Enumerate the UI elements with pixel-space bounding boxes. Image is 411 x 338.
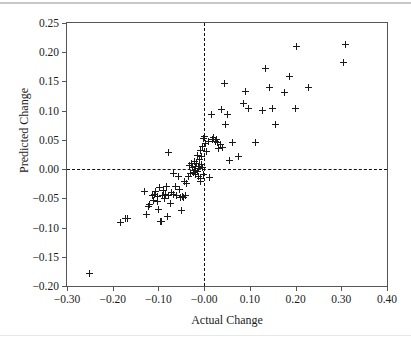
data-point bbox=[173, 192, 180, 199]
plot-area bbox=[67, 23, 387, 286]
y-axis-tick-label: 0.25 bbox=[39, 17, 59, 29]
data-point bbox=[245, 105, 252, 112]
zero-line-horizontal bbox=[67, 169, 387, 170]
data-point bbox=[229, 139, 236, 146]
data-point bbox=[193, 160, 200, 167]
data-point bbox=[305, 84, 312, 91]
data-point bbox=[161, 195, 168, 202]
y-axis-tick-label: −0.10 bbox=[32, 222, 59, 234]
y-axis-tick-label: 0.10 bbox=[39, 105, 59, 117]
x-axis-tick-label: −0.10 bbox=[145, 293, 172, 305]
data-point bbox=[286, 73, 293, 80]
x-axis-tick bbox=[341, 286, 342, 291]
data-point bbox=[165, 149, 172, 156]
data-point bbox=[181, 178, 188, 185]
data-point bbox=[170, 191, 177, 198]
y-axis-tick-label: −0.15 bbox=[32, 251, 59, 263]
zero-line-vertical bbox=[204, 23, 205, 286]
data-point bbox=[196, 156, 203, 163]
data-point bbox=[157, 218, 164, 225]
x-axis-tick-label: 0.10 bbox=[240, 293, 260, 305]
scan-artifact-top-line bbox=[0, 2, 411, 4]
data-point bbox=[191, 158, 198, 165]
y-axis-tick bbox=[62, 169, 67, 170]
data-point bbox=[155, 206, 162, 213]
x-axis-tick bbox=[67, 286, 68, 291]
data-point bbox=[293, 43, 300, 50]
data-point bbox=[170, 170, 177, 177]
x-axis-tick-label: 0.30 bbox=[331, 293, 351, 305]
data-point bbox=[210, 134, 217, 141]
data-point bbox=[122, 215, 129, 222]
y-axis-tick bbox=[62, 52, 67, 53]
y-axis-tick-label: 0.20 bbox=[39, 46, 59, 58]
y-axis-tick-label: 0.15 bbox=[39, 75, 59, 87]
data-point bbox=[151, 191, 158, 198]
y-axis-tick bbox=[62, 257, 67, 258]
data-point bbox=[292, 105, 299, 112]
data-point bbox=[159, 192, 166, 199]
x-axis-tick-label: −0.00 bbox=[191, 293, 218, 305]
data-point bbox=[143, 211, 150, 218]
data-point bbox=[240, 100, 247, 107]
y-axis-tick bbox=[62, 23, 67, 24]
data-point bbox=[149, 192, 156, 199]
data-point bbox=[214, 139, 221, 146]
data-point bbox=[154, 198, 161, 205]
data-point bbox=[218, 106, 225, 113]
data-point bbox=[189, 164, 196, 171]
data-point bbox=[176, 186, 183, 193]
data-point bbox=[259, 107, 266, 114]
data-point bbox=[187, 170, 194, 177]
data-point bbox=[177, 194, 184, 201]
data-point bbox=[145, 203, 152, 210]
y-axis-tick bbox=[62, 140, 67, 141]
y-axis-label: Predicted Change bbox=[17, 51, 32, 211]
data-point bbox=[266, 84, 273, 91]
data-point bbox=[281, 89, 288, 96]
data-point bbox=[209, 136, 216, 143]
y-axis-tick bbox=[62, 81, 67, 82]
data-point bbox=[221, 80, 228, 87]
y-axis-tick-label: −0.05 bbox=[32, 192, 59, 204]
data-point bbox=[162, 191, 169, 198]
plot-frame: −0.20−0.15−0.10−0.050.000.050.100.150.20… bbox=[66, 22, 388, 287]
data-point bbox=[156, 184, 163, 191]
data-point bbox=[179, 193, 186, 200]
data-point bbox=[340, 59, 347, 66]
x-axis-tick bbox=[387, 286, 388, 291]
data-point bbox=[190, 169, 197, 176]
data-point bbox=[172, 183, 179, 190]
data-point bbox=[222, 121, 229, 128]
data-point bbox=[215, 145, 222, 152]
data-point bbox=[194, 152, 201, 159]
data-point bbox=[165, 192, 172, 199]
data-point bbox=[272, 121, 279, 128]
data-point bbox=[185, 173, 192, 180]
data-point bbox=[197, 178, 204, 185]
x-axis-tick-label: −0.20 bbox=[99, 293, 126, 305]
data-point bbox=[342, 41, 349, 48]
data-point bbox=[167, 200, 174, 207]
data-point bbox=[124, 215, 131, 222]
data-point bbox=[191, 167, 198, 174]
data-point bbox=[206, 174, 213, 181]
data-point bbox=[213, 136, 220, 143]
data-point bbox=[242, 88, 249, 95]
x-axis-tick bbox=[250, 286, 251, 291]
x-axis-tick-label: 0.20 bbox=[286, 293, 306, 305]
data-point bbox=[158, 218, 165, 225]
data-point bbox=[235, 153, 242, 160]
data-point bbox=[160, 187, 167, 194]
data-point bbox=[262, 65, 269, 72]
x-axis-label: Actual Change bbox=[66, 313, 388, 328]
data-point bbox=[154, 193, 161, 200]
data-point bbox=[86, 270, 93, 277]
x-axis-tick bbox=[296, 286, 297, 291]
data-point bbox=[141, 188, 148, 195]
scan-artifact-bottom-line bbox=[0, 335, 411, 336]
data-point bbox=[195, 173, 202, 180]
data-point bbox=[205, 138, 212, 145]
data-point bbox=[146, 201, 153, 208]
data-point bbox=[208, 111, 215, 118]
